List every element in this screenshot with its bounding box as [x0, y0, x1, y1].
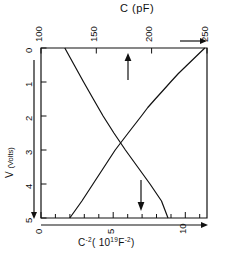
arrow-down-annotation: [138, 180, 145, 211]
left-tick-label-5: 5: [24, 218, 34, 223]
left-tick-label-3: 3: [24, 150, 34, 155]
top-tick-label-250: 250: [200, 26, 210, 42]
left-axis-title-symbol: V: [4, 171, 15, 178]
left-tick-label-4: 4: [24, 184, 34, 189]
arrow-up-annotation: [125, 53, 132, 80]
top-axis-title-text: C (pF): [120, 2, 154, 14]
bottom-tick-label-5: 5: [106, 229, 116, 234]
figure-c-v-plot: C (pF) 100 150 200 250 0 1 2 3 4 5 V (Vo…: [0, 0, 231, 259]
bottom-axis-title-open: ( 10: [92, 237, 110, 248]
left-axis-title: V (Volts): [4, 147, 15, 178]
left-tick-label-0: 0: [24, 48, 34, 53]
left-tick-label-2: 2: [24, 116, 34, 121]
bottom-axis-title-close: ): [131, 237, 135, 248]
left-tick-label-1: 1: [24, 82, 34, 87]
left-axis-ticks: [41, 48, 47, 218]
left-axis-title-unit: (Volts): [6, 147, 15, 168]
curve-capacitance: [70, 48, 205, 218]
plot-frame: [41, 48, 207, 218]
top-tick-label-150: 150: [89, 26, 99, 42]
bottom-tick-label-0: 0: [34, 229, 44, 234]
bottom-axis-title-c: C: [78, 237, 86, 248]
top-axis-title: C (pF): [120, 2, 154, 14]
top-tick-label-100: 100: [34, 26, 44, 42]
curve-inverse-square-capacitance: [65, 48, 168, 218]
bottom-axis-ticks: [41, 212, 200, 218]
top-tick-label-200: 200: [144, 26, 154, 42]
bottom-axis-title: C-2( 1019F-2): [78, 236, 135, 248]
bottom-tick-label-10: 10: [178, 223, 188, 234]
